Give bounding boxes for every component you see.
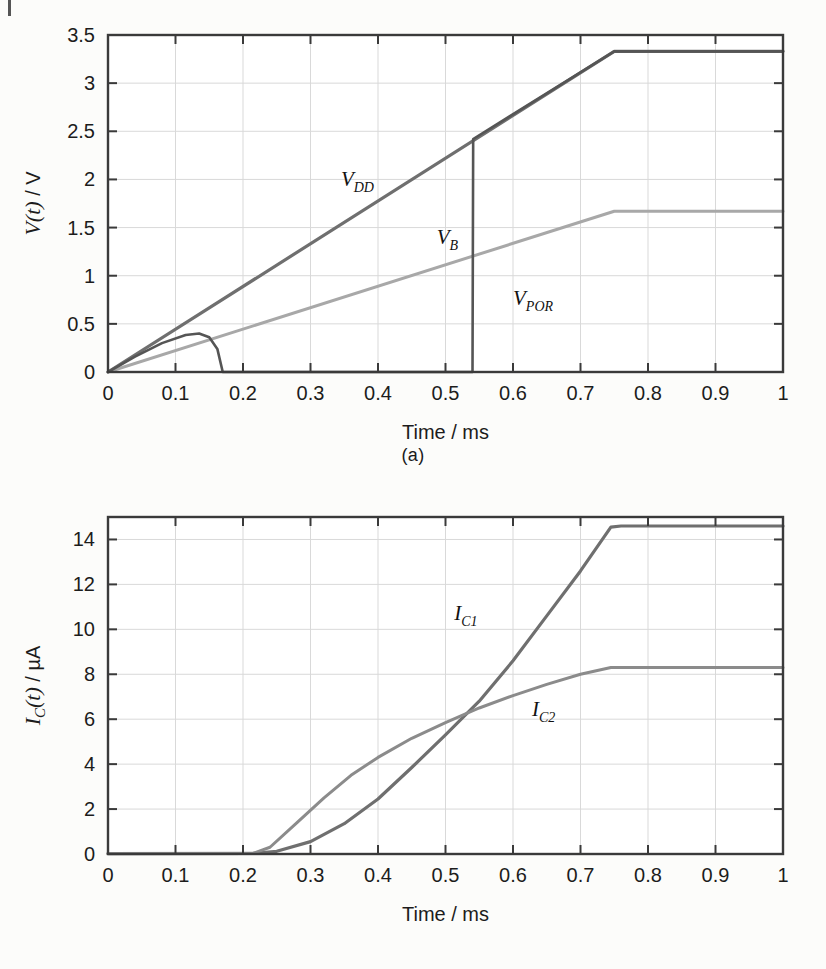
y-tick-label: 2.5 (67, 120, 95, 142)
figure-page: 00.10.20.30.40.50.60.70.80.9100.511.522.… (0, 0, 826, 969)
x-tick-label: 0.6 (499, 864, 527, 886)
x-tick-label: 0.2 (229, 864, 257, 886)
x-tick-label: 1 (777, 382, 788, 404)
x-axis-title: Time / ms (402, 421, 489, 440)
y-tick-label: 2 (84, 168, 95, 190)
y-tick-label: 0 (84, 843, 95, 865)
svg-text:V(t) / V: V(t) / V (20, 171, 45, 236)
x-tick-label: 0.7 (567, 382, 595, 404)
figure-b: 00.10.20.30.40.50.60.70.80.9102468101214… (0, 482, 826, 969)
x-tick-label: 0 (102, 382, 113, 404)
y-tick-label: 2 (84, 798, 95, 820)
y-tick-label: 1.5 (67, 217, 95, 239)
x-tick-label: 0.9 (702, 382, 730, 404)
x-tick-label: 1 (777, 864, 788, 886)
figure-a: 00.10.20.30.40.50.60.70.80.9100.511.522.… (0, 0, 826, 487)
y-tick-label: 8 (84, 663, 95, 685)
y-tick-label: 6 (84, 708, 95, 730)
y-tick-label: 3.5 (67, 24, 95, 46)
x-tick-label: 0.3 (297, 382, 325, 404)
y-tick-label: 4 (84, 753, 95, 775)
x-tick-label: 0.1 (162, 864, 190, 886)
x-tick-label: 0.3 (297, 864, 325, 886)
x-tick-label: 0.5 (432, 382, 460, 404)
y-tick-label: 0 (84, 361, 95, 383)
y-axis-title: IC(t) / µA (20, 645, 48, 726)
x-tick-label: 0.7 (567, 864, 595, 886)
x-tick-label: 0.5 (432, 864, 460, 886)
y-tick-label: 10 (73, 618, 95, 640)
y-axis-title: V(t) / V (20, 171, 45, 236)
x-tick-label: 0.8 (634, 864, 662, 886)
x-tick-label: 0.1 (162, 382, 190, 404)
y-tick-label: 12 (73, 573, 95, 595)
x-tick-label: 0.9 (702, 864, 730, 886)
x-tick-label: 0.2 (229, 382, 257, 404)
chart-a-canvas: 00.10.20.30.40.50.60.70.80.9100.511.522.… (0, 0, 826, 440)
x-tick-label: 0 (102, 864, 113, 886)
y-tick-label: 0.5 (67, 313, 95, 335)
figure-a-caption: (a) (0, 445, 826, 466)
x-tick-label: 0.8 (634, 382, 662, 404)
x-tick-label: 0.4 (364, 864, 392, 886)
y-tick-label: 14 (73, 528, 95, 550)
y-tick-label: 3 (84, 72, 95, 94)
x-tick-label: 0.4 (364, 382, 392, 404)
chart-b-canvas: 00.10.20.30.40.50.60.70.80.9102468101214… (0, 482, 826, 922)
x-tick-label: 0.6 (499, 382, 527, 404)
y-tick-label: 1 (84, 265, 95, 287)
svg-text:IC(t) / µA: IC(t) / µA (20, 645, 48, 726)
x-axis-title: Time / ms (402, 903, 489, 922)
